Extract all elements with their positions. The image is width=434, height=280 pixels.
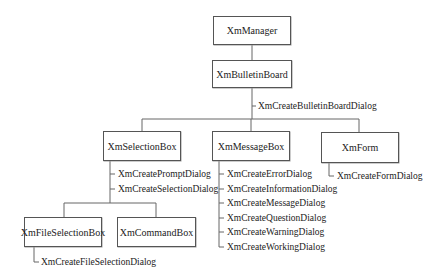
tick-form-fn	[329, 163, 334, 176]
node-xmbulletinboard: XmBulletinBoard	[212, 60, 292, 88]
node-label: XmFileSelectionBox	[21, 227, 105, 238]
fn-bulletin-0: XmCreateBulletinBoardDialog	[258, 100, 377, 112]
node-xmselectionbox: XmSelectionBox	[103, 131, 181, 161]
node-xmcommandbox: XmCommandBox	[117, 217, 196, 247]
node-label: XmForm	[342, 142, 379, 153]
fn-form-0: XmCreateFormDialog	[337, 170, 422, 182]
tick-fileselection-fn	[34, 247, 39, 262]
fn-message-3: XmCreateQuestionDialog	[227, 212, 326, 224]
fn-message-5: XmCreateWorkingDialog	[227, 241, 325, 253]
fn-selection-0: XmCreatePromptDialog	[118, 168, 211, 180]
node-label: XmBulletinBoard	[216, 69, 288, 80]
node-xmmanager: XmManager	[213, 16, 291, 45]
node-label: XmCommandBox	[120, 227, 193, 238]
fn-message-0: XmCreateErrorDialog	[227, 168, 312, 180]
fn-message-4: XmCreateWarningDialog	[227, 226, 324, 238]
fn-selection-1: XmCreateSelectionDialog	[118, 183, 218, 195]
node-xmmessagebox: XmMessageBox	[212, 131, 290, 161]
node-label: XmMessageBox	[218, 141, 285, 152]
node-label: XmSelectionBox	[108, 141, 177, 152]
node-xmfileselectionbox: XmFileSelectionBox	[24, 217, 102, 247]
fn-message-2: XmCreateMessageDialog	[227, 197, 325, 209]
fn-message-1: XmCreateInformationDialog	[227, 183, 337, 195]
node-xmform: XmForm	[321, 132, 399, 163]
node-label: XmManager	[227, 25, 278, 36]
fn-fileselection-0: XmCreateFileSelectionDialog	[41, 256, 156, 268]
